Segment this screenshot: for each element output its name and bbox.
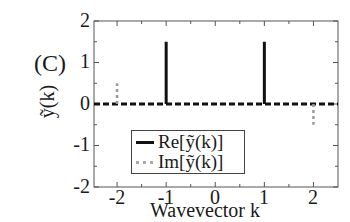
ytick-0: 0 <box>50 92 90 115</box>
dotted-line-swatch-icon <box>136 161 154 164</box>
legend-label-re: Re[ỹ(k)] <box>158 131 223 153</box>
legend: Re[ỹ(k)] Im[ỹ(k)] <box>131 130 245 174</box>
xtick-m2: -2 <box>102 186 132 209</box>
xtick-2: 2 <box>298 186 328 209</box>
legend-item-im: Im[ỹ(k)] <box>136 152 223 172</box>
xtick-1: 1 <box>249 186 279 209</box>
xtick-m1: -1 <box>151 186 181 209</box>
solid-line-swatch-icon <box>136 141 154 144</box>
ytick-2: 2 <box>50 9 90 32</box>
xtick-0: 0 <box>200 186 230 209</box>
ytick-m1: -1 <box>50 133 90 156</box>
legend-item-re: Re[ỹ(k)] <box>136 132 223 152</box>
series-re <box>166 42 264 104</box>
legend-label-im: Im[ỹ(k)] <box>158 151 223 173</box>
ytick-m2: -2 <box>50 175 90 198</box>
ytick-1: 1 <box>50 50 90 73</box>
